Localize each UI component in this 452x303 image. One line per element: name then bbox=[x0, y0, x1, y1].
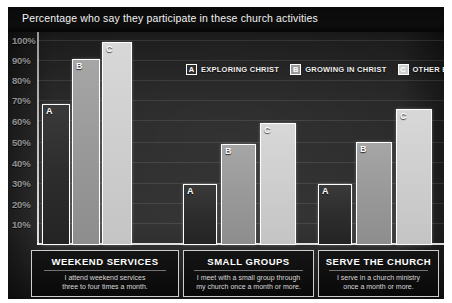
legend-label-growing-in-christ: GROWING IN CHRIST bbox=[305, 65, 386, 74]
y-tick-10: 10% bbox=[12, 219, 30, 230]
bar-serve-growing: B bbox=[356, 142, 392, 245]
y-tick-30: 30% bbox=[12, 178, 30, 189]
bar-letter-b: B bbox=[225, 147, 232, 156]
title-bar: Percentage who say they participate in t… bbox=[8, 7, 444, 32]
card-description: I serve in a church ministry once a mont… bbox=[319, 274, 438, 291]
bar-letter-c: C bbox=[400, 112, 407, 121]
bar-weekend-other: C bbox=[102, 42, 132, 245]
chart-legend: A EXPLORING CHRIST B GROWING IN CHRIST C… bbox=[186, 62, 444, 77]
gridline-100 bbox=[38, 40, 444, 41]
card-divider bbox=[329, 270, 429, 271]
chart-poster: Percentage who say they participate in t… bbox=[0, 0, 452, 303]
y-tick-40: 40% bbox=[12, 158, 30, 169]
y-tick-70: 70% bbox=[12, 95, 30, 106]
y-tick-90: 90% bbox=[12, 55, 30, 66]
legend-swatch-c: C bbox=[398, 64, 409, 75]
bar-letter-c: C bbox=[106, 45, 113, 54]
card-divider bbox=[194, 270, 302, 271]
card-description-line2: once a month or more. bbox=[343, 283, 413, 290]
y-tick-100: 100% bbox=[12, 35, 36, 46]
legend-swatch-a: A bbox=[186, 64, 197, 75]
card-description-line2: three to four times a month. bbox=[62, 283, 148, 290]
bar-weekend-growing: B bbox=[72, 59, 100, 245]
bar-smallgroups-growing: B bbox=[221, 144, 256, 245]
card-weekend-services: WEEKEND SERVICES I attend weekend servic… bbox=[31, 250, 179, 297]
y-tick-80: 80% bbox=[12, 75, 30, 86]
page-title: Percentage who say they participate in t… bbox=[22, 12, 318, 24]
card-description-line1: I serve in a church ministry bbox=[337, 274, 420, 281]
legend-label-exploring-christ: EXPLORING CHRIST bbox=[201, 65, 279, 74]
bar-letter-c: C bbox=[264, 126, 271, 135]
y-tick-50: 50% bbox=[12, 137, 30, 148]
y-tick-20: 20% bbox=[12, 199, 30, 210]
card-small-groups: SMALL GROUPS I meet with a small group t… bbox=[183, 250, 314, 297]
bar-smallgroups-other: C bbox=[260, 123, 296, 245]
card-title: SERVE THE CHURCH bbox=[319, 256, 438, 267]
bar-letter-a: A bbox=[322, 187, 329, 196]
bar-letter-b: B bbox=[76, 62, 83, 71]
card-description-line1: I attend weekend services bbox=[65, 274, 146, 281]
bar-letter-b: B bbox=[360, 145, 367, 154]
y-tick-60: 60% bbox=[12, 116, 30, 127]
bar-serve-exploring: A bbox=[318, 184, 352, 245]
card-serve-the-church: SERVE THE CHURCH I serve in a church min… bbox=[318, 250, 439, 297]
bar-smallgroups-exploring: A bbox=[183, 184, 217, 245]
y-axis-line bbox=[37, 32, 39, 245]
card-title: SMALL GROUPS bbox=[184, 256, 313, 267]
card-divider bbox=[44, 270, 167, 271]
bar-serve-other: C bbox=[396, 109, 432, 245]
chart-panel: Percentage who say they participate in t… bbox=[8, 7, 444, 299]
card-description-line2: my church once a month or more. bbox=[196, 283, 301, 290]
legend-item-growing-in-christ: B GROWING IN CHRIST bbox=[290, 64, 386, 75]
legend-swatch-b: B bbox=[290, 64, 301, 75]
category-cards: WEEKEND SERVICES I attend weekend servic… bbox=[8, 250, 444, 299]
card-description-line1: I meet with a small group through bbox=[197, 274, 301, 281]
bar-weekend-exploring: A bbox=[42, 104, 70, 245]
bar-letter-a: A bbox=[187, 187, 194, 196]
legend-label-other-believers: OTHER BELIEVERS bbox=[413, 65, 444, 74]
legend-item-exploring-christ: A EXPLORING CHRIST bbox=[186, 64, 279, 75]
legend-item-other-believers: C OTHER BELIEVERS bbox=[398, 64, 444, 75]
card-description: I attend weekend services three to four … bbox=[32, 274, 178, 291]
card-title: WEEKEND SERVICES bbox=[32, 256, 178, 267]
bar-letter-a: A bbox=[46, 107, 53, 116]
card-description: I meet with a small group through my chu… bbox=[184, 274, 313, 291]
